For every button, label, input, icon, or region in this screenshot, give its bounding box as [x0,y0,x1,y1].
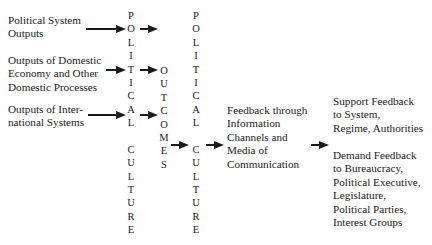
column-outcomes: O U T C O M E S [158,64,170,171]
demand-feedback-label: Demand Feedback to Bureaucracy, Politica… [333,149,421,229]
arrow-icon [140,25,158,33]
input-international-outputs: Outputs of Inter- national Systems [8,103,84,130]
arrow-icon [171,141,189,149]
feedback-channel-label: Feedback through Information Channels an… [227,104,307,171]
arrow-icon [140,111,158,119]
support-feedback-label: Support Feedback to System, Regime, Auth… [333,95,423,135]
arrow-icon [140,66,158,74]
column-political-culture-2: P O L I T I C A L C U L T U R E [190,9,202,237]
column-political-culture-1: P O L I T I C A L C U L T U R E [125,9,137,237]
arrow-icon [106,66,126,74]
arrow-icon [206,141,224,149]
input-domestic-outputs: Outputs of Domestic Economy and Other Do… [8,54,101,94]
arrow-icon [88,111,126,119]
arrow-icon [311,141,329,149]
input-political-system-outputs: Political System Outputs [8,14,81,41]
arrow-icon [86,25,126,33]
